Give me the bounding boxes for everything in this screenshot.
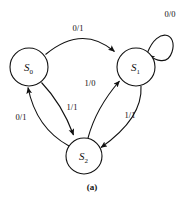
state-node-s1[interactable]: S1	[117, 48, 155, 86]
edge-s2-s1	[88, 81, 120, 138]
edge-label-s2-s0: 0/1	[16, 112, 27, 122]
edge-s0-s1	[46, 38, 115, 54]
state-node-s2[interactable]: S2	[66, 138, 102, 174]
state-label-s1-sub: 1	[137, 68, 141, 76]
edge-label-s0-s1: 0/1	[73, 23, 84, 33]
state-label-s2-sub: 2	[85, 157, 89, 165]
state-diagram-figure: S0 S1 S2 0/1 0/0 1/1 0/1 1/0 1/1 (a)	[0, 0, 188, 200]
edge-label-s2-s1: 1/0	[85, 78, 96, 88]
edge-label-s1-self-loop: 0/0	[165, 9, 176, 19]
state-diagram-canvas: S0 S1 S2 0/1 0/0 1/1 0/1 1/0 1/1 (a)	[0, 0, 188, 200]
edge-label-s0-s2: 1/1	[67, 102, 78, 112]
state-label-s0-sub: 0	[30, 68, 34, 76]
edge-s2-s0	[28, 88, 69, 147]
state-node-s0[interactable]: S0	[10, 48, 48, 86]
figure-caption: (a)	[87, 182, 98, 192]
edge-label-s1-s2: 1/1	[125, 110, 136, 120]
